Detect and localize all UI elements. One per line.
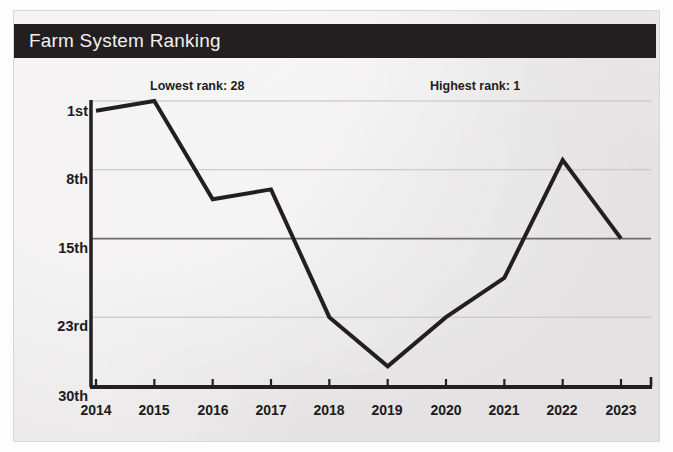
x-tick-2022: 2022 — [546, 403, 577, 417]
x-tick-2018: 2018 — [313, 403, 344, 417]
x-axis-labels: 2014 2015 2016 2017 2018 2019 2020 2021 … — [14, 403, 660, 427]
y-tick-15th: 15th — [58, 241, 88, 256]
x-tick-2014: 2014 — [80, 403, 111, 417]
x-tick-2015: 2015 — [138, 403, 169, 417]
x-tick-2019: 2019 — [371, 403, 402, 417]
y-axis-labels: 1st 8th 15th 23rd 30th — [14, 11, 88, 442]
y-tick-1st: 1st — [67, 104, 88, 119]
y-tick-8th: 8th — [66, 172, 88, 187]
x-tick-2016: 2016 — [197, 403, 228, 417]
card-title-bar: Farm System Ranking — [14, 24, 656, 58]
x-tick-2023: 2023 — [605, 403, 636, 417]
axis-lines — [90, 100, 652, 387]
annotation-lowest-rank: Lowest rank: 28 — [150, 79, 244, 93]
x-tick-2020: 2020 — [430, 403, 461, 417]
ranking-line-series — [96, 101, 621, 366]
gridlines — [91, 101, 651, 386]
ranking-line-chart — [14, 11, 660, 442]
y-tick-23rd: 23rd — [57, 319, 88, 334]
x-tick-2017: 2017 — [255, 403, 286, 417]
farm-system-ranking-card: Farm System Ranking Lowest rank: 28 High… — [13, 10, 660, 442]
annotation-highest-rank: Highest rank: 1 — [430, 79, 520, 93]
x-tick-2021: 2021 — [488, 403, 519, 417]
